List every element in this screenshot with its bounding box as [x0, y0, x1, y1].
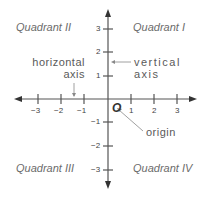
horizontal-axis-label: horizontal axis — [29, 56, 85, 80]
y-tick-label: 1 — [96, 71, 100, 80]
origin-label: origin — [146, 126, 176, 138]
arrow-up-icon — [105, 9, 111, 17]
x-tick-label: −2 — [54, 106, 63, 115]
y-tick-label: 3 — [96, 24, 100, 33]
vertical-axis-label: vertical axis — [134, 56, 181, 80]
arrow-down-icon — [105, 181, 111, 189]
x-tick-label: 2 — [152, 106, 156, 115]
arrow-right-icon — [189, 96, 197, 102]
quadrant-iv-label: Quadrant IV — [133, 162, 192, 174]
quadrant-iii-label: Quadrant III — [16, 162, 74, 174]
arrow-left-icon — [14, 96, 22, 102]
x-tick-label: 3 — [175, 106, 179, 115]
y-tick-label: −2 — [91, 141, 100, 150]
y-tick-label: −1 — [91, 117, 100, 126]
origin-symbol: O — [112, 101, 121, 115]
x-tick-label: −3 — [31, 106, 40, 115]
x-tick-label: −1 — [77, 106, 86, 115]
quadrant-i-label: Quadrant I — [133, 21, 185, 33]
quadrant-ii-label: Quadrant II — [16, 21, 71, 33]
y-tick-label: −3 — [91, 165, 100, 174]
x-tick-label: 1 — [129, 106, 133, 115]
y-tick-label: 2 — [96, 47, 100, 56]
